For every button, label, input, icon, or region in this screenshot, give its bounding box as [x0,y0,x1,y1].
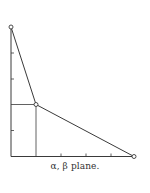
segment-top-to-middle [11,27,36,105]
point-right-marker [132,155,136,159]
point-top-marker [9,25,13,29]
segment-middle-to-right [36,105,134,157]
point-middle-marker [34,103,38,107]
alpha-beta-plane-figure: α, β plane. [0,0,150,193]
figure-caption: α, β plane. [0,161,150,171]
